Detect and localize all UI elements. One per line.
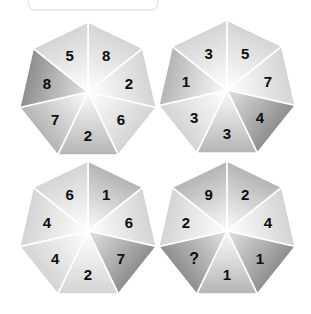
heptagon-3: 1672446 bbox=[14, 157, 162, 305]
heptagon-puzzle-grid: 8262785574331316724462411?29 bbox=[0, 0, 311, 314]
heptagon-1: 8262785 bbox=[14, 18, 162, 166]
heptagon-4: 2411?29 bbox=[153, 157, 301, 305]
heptagon-2: 5743313 bbox=[153, 16, 301, 164]
